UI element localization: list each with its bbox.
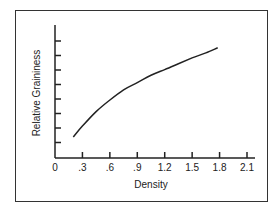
- x-tick-label: 1.8: [213, 162, 227, 173]
- line-chart: 0.3.6.91.21.51.82.1 Density Relative Gra…: [0, 0, 275, 210]
- y-ticks: [55, 41, 61, 143]
- axes: [55, 25, 255, 158]
- x-tick-label: .3: [78, 162, 87, 173]
- x-tick-label: 1.2: [158, 162, 172, 173]
- x-tick-label: 0: [52, 162, 58, 173]
- x-tick-label: 1.5: [185, 162, 199, 173]
- graininess-curve: [73, 48, 217, 137]
- x-ticks: 0.3.6.91.21.51.82.1: [52, 152, 254, 173]
- x-axis-title: Density: [134, 179, 167, 190]
- x-tick-label: 2.1: [240, 162, 254, 173]
- x-tick-label: .6: [106, 162, 115, 173]
- y-axis-title: Relative Graininess: [31, 50, 42, 137]
- x-tick-label: .9: [133, 162, 142, 173]
